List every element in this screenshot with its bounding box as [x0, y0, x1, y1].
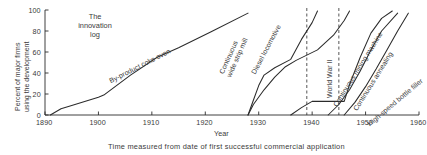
- x-tick-label: 1910: [143, 118, 159, 127]
- chart-title-line1: The: [62, 12, 128, 21]
- chart-title: The innovation log: [62, 12, 128, 39]
- chart-caption: Time measured from date of first success…: [108, 142, 345, 151]
- x-tick-label: 1960: [410, 118, 426, 127]
- x-tick-label: 1920: [196, 118, 212, 127]
- y-axis-title: Percent of major firms using the develop…: [14, 42, 31, 112]
- x-tick-label: 1940: [303, 118, 319, 127]
- annotation-world-war-2: World War II: [326, 59, 333, 98]
- chart-title-line3: log: [62, 30, 128, 39]
- y-tick-label: 80: [33, 27, 41, 36]
- y-tick-label: 20: [33, 90, 41, 99]
- y-tick-label: 40: [33, 69, 41, 78]
- chart-title-line2: innovation: [62, 21, 128, 30]
- x-tick-label: 1890: [36, 118, 52, 127]
- y-tick-label: 100: [28, 6, 40, 15]
- y-tick-label: 60: [33, 48, 41, 57]
- x-axis-title: Year: [214, 129, 229, 138]
- x-tick-label: 1930: [250, 118, 266, 127]
- y-axis-title-line2: using the development: [23, 42, 32, 112]
- x-tick-label: 1900: [89, 118, 105, 127]
- innovation-log-chart: Percent of major firms using the develop…: [0, 0, 427, 155]
- y-axis-title-line1: Percent of major firms: [14, 42, 23, 112]
